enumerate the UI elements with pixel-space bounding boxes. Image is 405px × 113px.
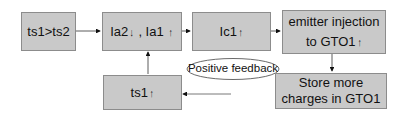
node-ic1: Ic1↑ [192,12,271,51]
node-ts1-gt-ts2: ts1>ts2 [21,12,76,51]
node-line1: emitter injection [288,14,379,29]
arrow-up-icon: ↑ [239,24,243,41]
arrow-up-icon: ↑ [357,32,361,52]
node-label: Ic1 [220,24,237,39]
node-line1: Store more [299,75,363,90]
arrow-up-icon: ↑ [169,24,173,41]
node-line2: charges in GTO1 [282,91,381,106]
node-label-ia1: Ia1 [146,24,164,39]
node-label: ts1>ts2 [27,23,69,40]
node-ia2-ia1: Ia2↓ , Ia1 ↑ [102,12,182,51]
node-label: ts1 [131,85,148,100]
node-emitter-injection: emitter injection to GTO1↑ [282,10,386,54]
feedback-label: Positive feedback [187,62,279,74]
node-ts1: ts1↑ [103,75,182,110]
arrow-down-icon: ↓ [130,24,134,41]
node-store-charges: Store more charges in GTO1 [275,73,387,109]
arrow-up-icon: ↑ [150,85,154,102]
node-label-ia2: Ia2 [110,24,128,39]
node-line2: to GTO1 [306,34,356,49]
separator: , [135,24,146,39]
